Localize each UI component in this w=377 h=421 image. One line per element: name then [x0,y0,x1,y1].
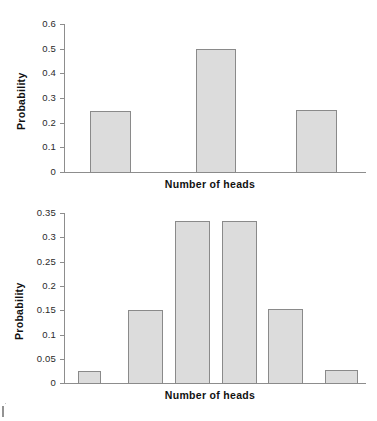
y-tick-top-0.2 [60,123,64,124]
x-axis-line-bottom [64,383,366,384]
y-tick-bottom-0 [60,383,64,384]
y-tick-top-0.1 [60,147,64,148]
y-tick-top-0.5 [60,49,64,50]
bar-bottom-1 [128,310,163,384]
binomial-probability-figure: 0.6 0.5 0.4 0.3 0.2 0.1 0 Probability Nu… [0,0,377,421]
scan-artifact-dot [5,403,6,404]
y-tick-bottom-0.15 [60,310,64,311]
y-tick-top-0.6 [60,24,64,25]
y-tick-label-top-0.5: 0.5 [18,44,56,54]
bar-bottom-3 [222,221,257,384]
bar-bottom-4 [268,309,303,384]
x-axis-label-bottom: Number of heads [120,389,300,401]
y-tick-label-top-0.1: 0.1 [18,142,56,152]
y-tick-bottom-0.25 [60,262,64,263]
y-tick-label-top-0: 0 [18,167,56,177]
y-tick-bottom-0.35 [60,213,64,214]
bar-bottom-0 [78,371,101,384]
y-tick-label-bottom-0.05: 0.05 [14,354,56,364]
x-axis-label-top: Number of heads [120,178,300,190]
y-axis-line-top [64,24,65,173]
bar-top-2 [296,110,337,173]
chart-panel-bottom: 0.35 0.3 0.25 0.2 0.15 0.1 0.05 0 Probab… [0,195,377,421]
y-tick-label-bottom-0.25: 0.25 [14,257,56,267]
bar-top-1 [196,49,236,173]
y-tick-label-bottom-0: 0 [14,378,56,388]
bar-bottom-2 [175,221,210,384]
y-tick-label-bottom-0.3: 0.3 [14,232,56,242]
y-tick-bottom-0.2 [60,286,64,287]
y-tick-bottom-0.05 [60,359,64,360]
y-tick-bottom-0.3 [60,237,64,238]
y-tick-top-0.3 [60,98,64,99]
y-tick-bottom-0.1 [60,335,64,336]
y-tick-top-0 [60,172,64,173]
scan-artifact [2,406,4,417]
bar-bottom-5 [325,370,358,384]
y-axis-label-top: Probability [15,72,27,130]
bar-top-0 [90,111,131,173]
chart-panel-top: 0.6 0.5 0.4 0.3 0.2 0.1 0 Probability Nu… [0,0,377,200]
y-tick-label-bottom-0.35: 0.35 [14,208,56,218]
y-tick-top-0.4 [60,73,64,74]
y-axis-label-bottom: Probability [13,282,25,340]
y-tick-label-top-0.6: 0.6 [18,19,56,29]
y-axis-line-bottom [64,213,65,384]
